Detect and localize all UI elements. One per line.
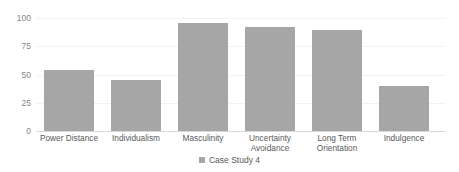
x-label-masculinity: Masculinity: [165, 133, 241, 143]
x-label-long-term-orientation: Long Term Orientation: [299, 133, 375, 153]
bar-power-distance[interactable]: [44, 70, 94, 131]
y-tick-label-75: 75: [22, 42, 31, 51]
bar-masculinity[interactable]: [178, 23, 228, 131]
x-label-power-distance: Power Distance: [31, 133, 107, 143]
bar-slot-masculinity: [178, 18, 228, 131]
y-tick-label-25: 25: [22, 99, 31, 108]
bar-indulgence[interactable]: [379, 86, 429, 131]
y-tick-label-50: 50: [22, 70, 31, 79]
x-label-uncertainty-avoidance: Uncertainty Avoidance: [232, 133, 308, 153]
plot-area: 100 75 50 25 0: [36, 18, 446, 131]
bars-layer: [36, 18, 446, 131]
bar-slot-long-term-orientation: [312, 18, 362, 131]
bar-slot-individualism: [111, 18, 161, 131]
legend-item-label[interactable]: Case Study 4: [209, 156, 260, 165]
bar-slot-power-distance: [44, 18, 94, 131]
y-tick-label-100: 100: [17, 14, 31, 23]
legend-swatch-icon: [199, 157, 205, 163]
bar-long-term-orientation[interactable]: [312, 30, 362, 131]
bar-slot-indulgence: [379, 18, 429, 131]
x-label-individualism: Individualism: [98, 133, 174, 143]
x-axis-baseline: 0: [36, 131, 446, 132]
bar-uncertainty-avoidance[interactable]: [245, 27, 295, 131]
bar-chart: 100 75 50 25 0: [0, 0, 459, 172]
x-label-indulgence: Indulgence: [366, 133, 442, 143]
bar-individualism[interactable]: [111, 80, 161, 131]
chart-legend: Case Study 4: [0, 156, 459, 165]
bar-slot-uncertainty-avoidance: [245, 18, 295, 131]
